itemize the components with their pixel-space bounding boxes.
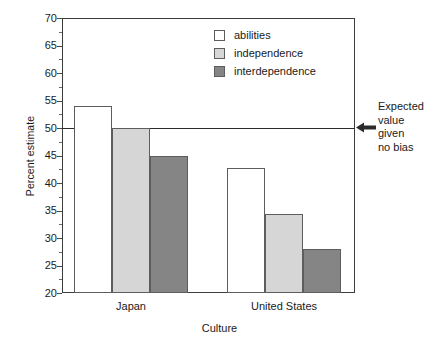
bar-united-states-interdependence	[303, 249, 341, 293]
y-tick-mark	[57, 101, 62, 102]
y-tick-mark	[57, 211, 62, 212]
bar-japan-abilities	[74, 106, 112, 293]
x-tick-label-japan: Japan	[116, 300, 146, 312]
y-minor-tick-mark	[59, 32, 62, 33]
y-tick-mark	[57, 266, 62, 267]
annotation-line-2: value	[378, 114, 424, 128]
y-tick-label: 55	[31, 95, 57, 106]
bar-chart-figure: Percent estimate 2025303540455055606570 …	[0, 0, 439, 342]
legend-item-interdependence: interdependence	[214, 63, 316, 79]
y-tick-mark	[57, 156, 62, 157]
y-minor-tick-mark	[59, 59, 62, 60]
legend-item-independence: independence	[214, 45, 316, 61]
annotation-line-1: Expected	[378, 100, 424, 114]
y-tick-label: 50	[31, 123, 57, 134]
y-minor-tick-mark	[59, 114, 62, 115]
y-tick-mark	[57, 18, 62, 19]
y-tick-mark	[57, 293, 62, 294]
y-tick-label: 20	[31, 288, 57, 299]
y-tick-mark	[57, 183, 62, 184]
left-arrow-icon	[355, 121, 377, 134]
y-minor-tick-mark	[59, 197, 62, 198]
y-minor-tick-mark	[59, 87, 62, 88]
y-tick-mark	[57, 46, 62, 47]
reference-line-annotation: Expected value given no bias	[378, 100, 424, 154]
y-minor-tick-mark	[59, 142, 62, 143]
chart-legend: abilitiesindependenceinterdependence	[214, 27, 316, 81]
y-tick-label: 30	[31, 233, 57, 244]
y-minor-tick-mark	[59, 252, 62, 253]
y-tick-label: 60	[31, 68, 57, 79]
y-minor-tick-mark	[59, 169, 62, 170]
legend-swatch-independence	[214, 48, 225, 59]
legend-swatch-abilities	[214, 30, 225, 41]
bar-united-states-abilities	[227, 168, 265, 293]
bar-japan-interdependence	[150, 156, 188, 294]
annotation-line-3: given	[378, 127, 424, 141]
bar-japan-independence	[112, 128, 150, 293]
legend-label-abilities: abilities	[234, 29, 271, 41]
y-tick-label: 40	[31, 178, 57, 189]
legend-label-interdependence: interdependence	[234, 65, 316, 77]
annotation-line-4: no bias	[378, 141, 424, 155]
y-tick-label: 70	[31, 13, 57, 24]
x-axis-title: Culture	[0, 322, 439, 334]
y-tick-label: 25	[31, 260, 57, 271]
legend-label-independence: independence	[234, 47, 303, 59]
legend-swatch-interdependence	[214, 66, 225, 77]
legend-item-abilities: abilities	[214, 27, 316, 43]
y-tick-mark	[57, 73, 62, 74]
y-minor-tick-mark	[59, 224, 62, 225]
y-tick-label: 65	[31, 40, 57, 51]
y-tick-label: 45	[31, 150, 57, 161]
x-tick-label-united-states: United States	[251, 300, 317, 312]
bar-united-states-independence	[265, 214, 303, 293]
y-tick-label: 35	[31, 205, 57, 216]
y-tick-mark	[57, 238, 62, 239]
y-minor-tick-mark	[59, 279, 62, 280]
